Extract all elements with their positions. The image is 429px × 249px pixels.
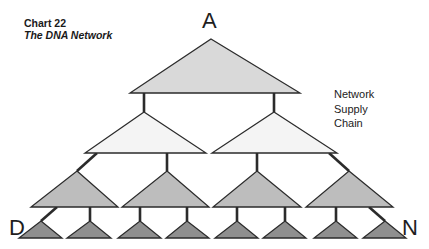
triangle-level-3 xyxy=(122,171,209,207)
triangle-level-2 xyxy=(85,112,206,153)
triangle-level-4 xyxy=(166,221,209,238)
triangle-level-4 xyxy=(263,221,306,238)
triangle-level-3 xyxy=(213,171,301,207)
dna-network-tree xyxy=(0,0,429,249)
triangle-level-4 xyxy=(215,221,258,238)
triangle-level-4 xyxy=(67,221,111,238)
triangle-level-3 xyxy=(31,171,118,207)
triangle-level-1 xyxy=(130,39,300,93)
triangle-level-3 xyxy=(306,171,393,207)
triangle-level-4 xyxy=(314,221,357,238)
triangle-level-2 xyxy=(212,112,337,153)
triangle-level-4 xyxy=(118,221,161,238)
triangle-level-4 xyxy=(363,221,406,238)
triangle-level-4 xyxy=(19,221,62,238)
